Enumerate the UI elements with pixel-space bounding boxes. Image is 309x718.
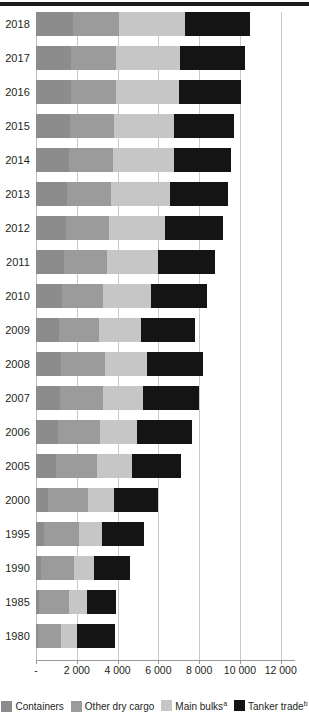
bar-segment-tanker-trade [94, 556, 130, 580]
bar-row [36, 352, 295, 376]
bar-segment-other-dry-cargo [62, 284, 103, 308]
bar-segment-containers [36, 216, 66, 240]
bar-row [36, 318, 295, 342]
bar-segment-containers [36, 420, 58, 444]
y-axis-label-1995: 1995 [5, 522, 30, 546]
stacked-bar[interactable] [36, 80, 241, 104]
y-axis-label-2012: 2012 [5, 216, 30, 240]
legend-label-containers: Containers [15, 701, 63, 712]
legend-item-main-bulks[interactable]: Main bulksa [161, 700, 227, 712]
bar-row [36, 250, 295, 274]
stacked-bar[interactable] [36, 114, 234, 138]
stacked-bar[interactable] [36, 590, 116, 614]
stacked-bar[interactable] [36, 386, 199, 410]
bar-segment-containers [36, 352, 61, 376]
y-axis-label-2010: 2010 [5, 284, 30, 308]
bar-row [36, 454, 295, 478]
legend-swatch-other-dry-cargo [71, 701, 82, 712]
bar-segment-tanker-trade [174, 148, 232, 172]
y-axis-label-2000: 2000 [5, 488, 30, 512]
stacked-bar[interactable] [36, 420, 192, 444]
chart-legend: ContainersOther dry cargoMain bulksaTank… [0, 698, 309, 714]
bar-segment-other-dry-cargo [71, 46, 116, 70]
y-axis-label-2016: 2016 [5, 80, 30, 104]
bar-segment-containers [36, 114, 70, 138]
stacked-bar[interactable] [36, 12, 250, 36]
y-axis-label-2006: 2006 [5, 420, 30, 444]
bar-segment-main-bulks [88, 488, 114, 512]
bar-segment-tanker-trade [165, 216, 223, 240]
bar-row [36, 46, 295, 70]
stacked-bar[interactable] [36, 318, 195, 342]
bar-row [36, 182, 295, 206]
bar-segment-containers [36, 318, 59, 342]
bar-row [36, 522, 295, 546]
stacked-bar[interactable] [36, 284, 207, 308]
bar-segment-other-dry-cargo [73, 12, 119, 36]
legend-item-containers[interactable]: Containers [1, 701, 63, 712]
stacked-bar[interactable] [36, 216, 223, 240]
bar-segment-other-dry-cargo [60, 386, 103, 410]
legend-swatch-tanker-trade [234, 700, 245, 711]
bar-segment-main-bulks [61, 624, 77, 648]
bar-segment-containers [36, 12, 73, 36]
bar-segment-other-dry-cargo [56, 454, 97, 478]
stacked-bar[interactable] [36, 522, 144, 546]
x-tick-label-6000: 6 000 [145, 664, 171, 676]
y-axis-label-2018: 2018 [5, 12, 30, 36]
bar-segment-other-dry-cargo [66, 216, 109, 240]
bar-segment-containers [36, 46, 71, 70]
legend-label-main-bulks: Main bulksa [175, 700, 227, 712]
stacked-bar[interactable] [36, 454, 181, 478]
bar-segment-main-bulks [111, 182, 171, 206]
bar-segment-containers [36, 80, 71, 104]
bar-segment-main-bulks [100, 420, 137, 444]
bar-segment-main-bulks [109, 216, 165, 240]
bar-row [36, 12, 295, 36]
bar-segment-main-bulks [114, 114, 174, 138]
bar-segment-tanker-trade [114, 488, 158, 512]
bar-segment-main-bulks [107, 250, 158, 274]
chart-root: 2018201720162015201420132012201120102009… [0, 0, 309, 718]
bar-segment-tanker-trade [132, 454, 181, 478]
bar-segment-main-bulks [79, 522, 102, 546]
stacked-bar[interactable] [36, 46, 245, 70]
bar-segment-tanker-trade [147, 352, 203, 376]
stacked-bar[interactable] [36, 556, 130, 580]
legend-item-tanker-trade[interactable]: Tanker tradeb [234, 700, 308, 712]
legend-item-other-dry-cargo[interactable]: Other dry cargo [71, 701, 154, 712]
bar-segment-containers [36, 522, 44, 546]
bar-segment-main-bulks [116, 80, 178, 104]
bar-segment-tanker-trade [141, 318, 195, 342]
bar-segment-main-bulks [113, 148, 174, 172]
y-axis-label-1980: 1980 [5, 624, 30, 648]
stacked-bar[interactable] [36, 250, 215, 274]
bar-segment-main-bulks [119, 12, 184, 36]
stacked-bar[interactable] [36, 624, 115, 648]
bar-segment-containers [36, 488, 48, 512]
bar-row [36, 148, 295, 172]
x-tick-label-0: - [34, 664, 38, 676]
bar-row [36, 420, 295, 444]
bar-segment-containers [36, 386, 60, 410]
plot-area [36, 12, 295, 660]
legend-label-tanker-trade: Tanker tradeb [248, 700, 308, 712]
legend-swatch-main-bulks [161, 700, 172, 711]
bar-rows [36, 12, 295, 660]
stacked-bar[interactable] [36, 148, 231, 172]
y-axis-label-2014: 2014 [5, 148, 30, 172]
y-axis-label-2008: 2008 [5, 352, 30, 376]
stacked-bar[interactable] [36, 182, 228, 206]
bar-segment-tanker-trade [158, 250, 215, 274]
stacked-bar[interactable] [36, 488, 158, 512]
stacked-bar[interactable] [36, 352, 203, 376]
bar-segment-tanker-trade [102, 522, 144, 546]
bar-segment-containers [36, 454, 56, 478]
bar-segment-containers [36, 284, 62, 308]
x-tick-label-2000: 2 000 [64, 664, 90, 676]
bar-segment-other-dry-cargo [69, 148, 113, 172]
legend-label-other-dry-cargo: Other dry cargo [85, 701, 154, 712]
bar-segment-tanker-trade [77, 624, 115, 648]
bar-segment-tanker-trade [170, 182, 228, 206]
bar-segment-main-bulks [116, 46, 180, 70]
